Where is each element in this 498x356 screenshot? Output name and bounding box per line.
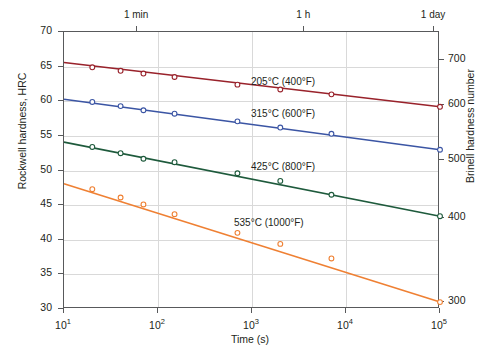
series-label-3: 425°C (800°F) xyxy=(251,161,315,172)
data-point xyxy=(278,242,283,247)
hardness-vs-tempering-time-chart: 1 min1 h1 day Rockwell hardness, HRC Bri… xyxy=(0,0,498,356)
y-tick-label-right: 700 xyxy=(448,53,488,64)
data-point xyxy=(438,300,443,305)
data-point xyxy=(141,108,146,113)
series-4 xyxy=(64,184,442,305)
x-tick-label: 105 xyxy=(417,316,461,331)
y-tick-label-left: 30 xyxy=(12,302,52,313)
series-label-1: 205°C (400°F) xyxy=(251,76,315,87)
data-point xyxy=(235,171,240,176)
data-point xyxy=(278,87,283,92)
data-point xyxy=(172,160,177,165)
data-point xyxy=(329,131,334,136)
y-tick-label-left: 60 xyxy=(12,94,52,105)
data-point xyxy=(438,147,443,152)
y-tick-label-left: 45 xyxy=(12,198,52,209)
data-point xyxy=(90,187,95,192)
data-point xyxy=(90,145,95,150)
data-point xyxy=(90,65,95,70)
top-axis-tick-label: 1 h xyxy=(275,9,331,20)
data-point xyxy=(141,156,146,161)
y-tick-label-left: 70 xyxy=(12,25,52,36)
data-point xyxy=(172,111,177,116)
data-point xyxy=(172,212,177,217)
top-axis-tick-label: 1 day xyxy=(405,9,461,20)
data-point xyxy=(329,92,334,97)
series-line xyxy=(64,184,440,302)
y-tick-label-right: 600 xyxy=(448,98,488,109)
data-point xyxy=(235,82,240,87)
data-point xyxy=(329,192,334,197)
y-tick-label-left: 50 xyxy=(12,164,52,175)
data-point xyxy=(235,230,240,235)
data-point xyxy=(141,71,146,76)
y-tick-label-left: 35 xyxy=(12,267,52,278)
data-point xyxy=(278,178,283,183)
y-tick-label-left: 40 xyxy=(12,233,52,244)
data-point xyxy=(438,104,443,109)
y-tick-label-left: 55 xyxy=(12,129,52,140)
series-label-4: 535°C (1000°F) xyxy=(234,217,304,228)
top-axis-tick-label: 1 min xyxy=(108,9,164,20)
x-tick-label: 103 xyxy=(229,316,273,331)
data-point xyxy=(118,151,123,156)
series-label-2: 315°C (600°F) xyxy=(251,108,315,119)
data-point xyxy=(118,68,123,73)
data-point xyxy=(278,125,283,130)
data-point xyxy=(235,119,240,124)
y-tick-label-left: 65 xyxy=(12,60,52,71)
y-tick-label-right: 500 xyxy=(448,153,488,164)
data-point xyxy=(329,256,334,261)
data-point xyxy=(141,202,146,207)
plot-area: 205°C (400°F)315°C (600°F)425°C (800°F)5… xyxy=(63,31,439,308)
x-tick-label: 101 xyxy=(41,316,85,331)
y-tick-label-right: 300 xyxy=(448,295,488,306)
series-3 xyxy=(64,142,442,218)
y-axis-label-right: Brinell hardness number xyxy=(464,41,476,211)
x-tick-label: 104 xyxy=(323,316,367,331)
data-point xyxy=(118,104,123,109)
x-axis-label: Time (s) xyxy=(150,333,350,345)
data-point xyxy=(90,100,95,105)
data-point xyxy=(172,75,177,80)
data-point xyxy=(118,195,123,200)
data-point xyxy=(438,214,443,219)
x-tick-label: 102 xyxy=(135,316,179,331)
y-tick-label-right: 400 xyxy=(448,211,488,222)
